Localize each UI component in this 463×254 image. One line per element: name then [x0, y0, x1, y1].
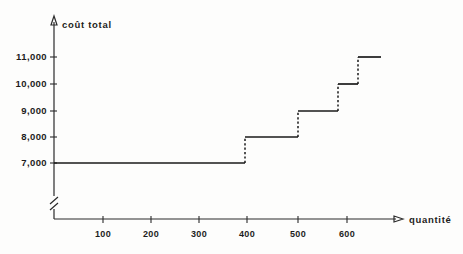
axis-break-icon [50, 197, 58, 210]
x-tick-label-300: 300 [179, 229, 219, 239]
x-tick-label-100: 100 [83, 229, 123, 239]
y-tick-label-9000: 9,000 [3, 105, 47, 116]
chart-figure: coût total quantité 11,000 10,000 9,000 … [0, 0, 463, 254]
x-tick-label-600: 600 [327, 229, 367, 239]
y-tick-label-10000: 10,000 [3, 78, 47, 89]
y-tick-label-8000: 8,000 [3, 131, 47, 142]
chart-plot-area [0, 0, 463, 254]
x-tick-label-200: 200 [131, 229, 171, 239]
y-tick-label-11000: 11,000 [3, 51, 47, 62]
y-tick-label-7000: 7,000 [3, 157, 47, 168]
x-tick-label-400: 400 [227, 229, 267, 239]
y-axis-title: coût total [62, 19, 112, 30]
x-axis-title: quantité [409, 214, 452, 225]
x-tick-label-500: 500 [278, 229, 318, 239]
